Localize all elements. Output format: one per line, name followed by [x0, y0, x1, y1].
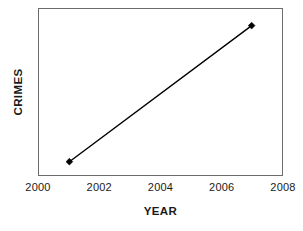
plot-canvas [39, 9, 282, 175]
x-tick-label: 2000 [25, 181, 50, 193]
series-line [69, 26, 251, 162]
plot-area [38, 8, 283, 176]
x-axis-tick-labels: 20002002200420062008 [38, 181, 283, 197]
chart-figure: CRIMES 20002002200420062008 YEAR [0, 0, 303, 231]
y-axis-title-label: CRIMES [12, 68, 24, 115]
x-tick-label: 2004 [148, 181, 173, 193]
x-tick-label: 2006 [209, 181, 234, 193]
x-tick-label: 2008 [270, 181, 295, 193]
x-axis-title: YEAR [38, 205, 283, 217]
y-axis-title: CRIMES [0, 0, 36, 184]
x-tick-label: 2002 [87, 181, 112, 193]
